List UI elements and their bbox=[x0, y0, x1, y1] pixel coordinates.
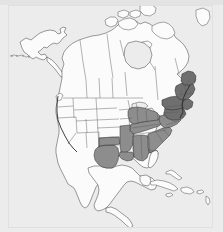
aleutian-island-dot-2 bbox=[16, 55, 17, 56]
region-central-america bbox=[106, 207, 133, 228]
aleutian-island-dot-3 bbox=[22, 55, 23, 56]
island-puerto-rico bbox=[197, 190, 204, 194]
range-louisiana bbox=[119, 152, 134, 161]
range-maine bbox=[181, 71, 196, 85]
island-devon bbox=[130, 10, 141, 18]
island-melville bbox=[118, 10, 129, 18]
aleutian-chain bbox=[10, 55, 30, 57]
range-coastal-seaboard bbox=[182, 99, 193, 110]
island-banks bbox=[105, 17, 118, 27]
aleutian-island-dot-4 bbox=[28, 56, 29, 57]
north-america-range-map bbox=[0, 0, 223, 232]
island-hispaniola bbox=[181, 187, 194, 194]
island-greenland-edge bbox=[196, 8, 210, 26]
island-jamaica bbox=[166, 193, 173, 197]
region-mexico bbox=[88, 165, 157, 211]
region-alaska bbox=[20, 27, 67, 60]
aleutian-island-dot bbox=[11, 55, 12, 56]
island-bahamas bbox=[166, 170, 182, 180]
alaska-panhandle bbox=[47, 57, 64, 77]
range-oklahoma bbox=[99, 137, 120, 146]
island-lesser-antilles bbox=[206, 196, 210, 205]
map-canvas bbox=[0, 0, 223, 232]
